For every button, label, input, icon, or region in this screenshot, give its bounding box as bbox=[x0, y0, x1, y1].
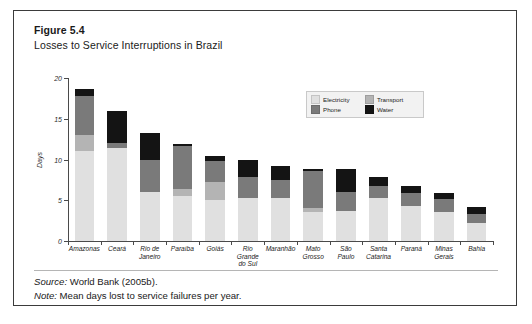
legend-label-electricity: Electricity bbox=[323, 96, 349, 103]
y-axis-tick-label: 10 bbox=[54, 156, 62, 163]
bar-segment-water bbox=[140, 133, 160, 160]
bar-column bbox=[107, 111, 127, 241]
figure-title: Losses to Service Interruptions in Brazi… bbox=[34, 39, 223, 51]
figure-source-text: World Bank (2005b). bbox=[67, 276, 157, 287]
legend-swatch-phone bbox=[311, 105, 320, 114]
bar-series-group bbox=[68, 78, 493, 241]
bar-segment-phone bbox=[369, 186, 389, 198]
bar-segment-transport bbox=[173, 189, 193, 196]
bar-segment-phone bbox=[401, 193, 421, 206]
figure-frame: Figure 5.4 Losses to Service Interruptio… bbox=[13, 10, 517, 306]
legend-swatch-transport bbox=[365, 95, 374, 104]
figure-note-label: Note: bbox=[34, 290, 57, 301]
bar-column bbox=[434, 193, 454, 241]
bar-column bbox=[467, 207, 487, 241]
figure-source-label: Source: bbox=[34, 276, 67, 287]
bar-segment-electricity bbox=[75, 151, 95, 241]
figure-note-text: Mean days lost to service failures per y… bbox=[57, 290, 242, 301]
legend-label-transport: Transport bbox=[377, 96, 403, 103]
bar-column bbox=[303, 168, 323, 241]
bar-segment-electricity bbox=[336, 211, 356, 241]
bar-segment-electricity bbox=[271, 198, 291, 241]
bar-segment-electricity bbox=[140, 192, 160, 241]
bar-segment-water bbox=[271, 166, 291, 180]
bar-segment-electricity bbox=[173, 196, 193, 241]
legend-item-electricity: Electricity bbox=[311, 95, 365, 104]
bar-column bbox=[173, 144, 193, 241]
figure-source: Source: World Bank (2005b). bbox=[34, 276, 158, 287]
y-axis-title: Days bbox=[36, 152, 43, 168]
figure-number: Figure 5.4 bbox=[34, 24, 85, 36]
bar-segment-water bbox=[75, 89, 95, 96]
footnote-divider bbox=[34, 270, 498, 271]
bar-segment-water bbox=[467, 207, 487, 214]
bar-column bbox=[140, 133, 160, 241]
figure-note: Note: Mean days lost to service failures… bbox=[34, 290, 241, 301]
bar-column bbox=[205, 156, 225, 241]
legend-item-phone: Phone bbox=[311, 105, 365, 114]
bar-segment-electricity bbox=[434, 212, 454, 241]
bar-segment-water bbox=[369, 177, 389, 185]
bar-segment-transport bbox=[75, 135, 95, 151]
bar-column bbox=[75, 89, 95, 241]
bar-column bbox=[401, 186, 421, 241]
chart-legend: Electricity Transport Phone Water bbox=[306, 91, 424, 118]
bar-column bbox=[238, 160, 258, 241]
bar-column bbox=[271, 166, 291, 241]
bar-segment-electricity bbox=[467, 223, 487, 241]
chart-plot-area: 05101520 Days bbox=[68, 78, 493, 241]
bar-segment-phone bbox=[173, 146, 193, 188]
y-axis-tick-label: 20 bbox=[54, 75, 62, 82]
y-axis-tick-label: 15 bbox=[54, 115, 62, 122]
bar-segment-phone bbox=[336, 192, 356, 211]
bar-segment-electricity bbox=[401, 206, 421, 241]
legend-swatch-electricity bbox=[311, 95, 320, 104]
bar-column bbox=[369, 177, 389, 241]
legend-label-water: Water bbox=[377, 106, 393, 113]
bar-column bbox=[336, 169, 356, 241]
legend-item-transport: Transport bbox=[365, 95, 419, 104]
bar-segment-electricity bbox=[238, 198, 258, 241]
bar-segment-transport bbox=[205, 182, 225, 200]
bar-segment-electricity bbox=[205, 200, 225, 241]
bar-segment-phone bbox=[467, 214, 487, 223]
x-axis-category-labels: AmazonasCearáRio deJaneiroParaíbaGoiásRi… bbox=[68, 245, 493, 279]
legend-label-phone: Phone bbox=[323, 106, 341, 113]
bar-segment-phone bbox=[205, 161, 225, 182]
bar-segment-phone bbox=[238, 177, 258, 197]
legend-item-water: Water bbox=[365, 105, 419, 114]
x-axis-line bbox=[68, 241, 493, 242]
bar-segment-electricity bbox=[369, 198, 389, 241]
bar-segment-water bbox=[107, 111, 127, 144]
bar-segment-phone bbox=[303, 171, 323, 208]
bar-segment-electricity bbox=[303, 212, 323, 241]
bar-segment-phone bbox=[271, 180, 291, 198]
bar-segment-water bbox=[336, 169, 356, 192]
bar-segment-electricity bbox=[107, 148, 127, 241]
y-axis-tick-label: 5 bbox=[58, 197, 62, 204]
x-axis-label: Bahia bbox=[452, 245, 501, 253]
bar-segment-water bbox=[238, 160, 258, 177]
bar-segment-phone bbox=[140, 160, 160, 193]
bar-segment-phone bbox=[434, 199, 454, 212]
bar-segment-phone bbox=[75, 96, 95, 135]
legend-swatch-water bbox=[365, 105, 374, 114]
bar-segment-water bbox=[401, 186, 421, 193]
y-axis-tick-label: 0 bbox=[58, 238, 62, 245]
